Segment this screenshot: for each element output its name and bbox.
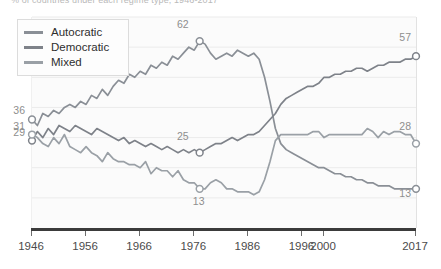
chart-screenshot: % of countries under each regime type, 1… <box>0 0 441 269</box>
value-label-end-mixed: 28 <box>399 120 411 132</box>
legend-item-democratic[interactable]: Democratic <box>24 40 121 55</box>
legend-swatch-icon <box>24 61 43 64</box>
legend-item-autocratic[interactable]: Autocratic <box>24 25 121 40</box>
x-axis-tick-label: 1986 <box>235 240 261 252</box>
x-axis-tick <box>323 231 324 236</box>
x-axis-line <box>31 228 416 231</box>
legend-label: Autocratic <box>51 27 102 39</box>
x-axis-tick <box>247 231 248 236</box>
x-axis-tick <box>193 231 194 236</box>
value-label-end-autocratic: 13 <box>399 187 411 199</box>
chart-legend: Autocratic Democratic Mixed <box>17 19 129 76</box>
x-axis-tick <box>31 231 32 236</box>
x-axis-tick-label: 1976 <box>180 240 206 252</box>
x-axis-tick-label: 1956 <box>72 240 98 252</box>
value-label-start-democratic: 29 <box>13 126 25 138</box>
legend-swatch-icon <box>24 46 43 49</box>
value-label-annotation-democratic: 25 <box>177 130 189 142</box>
x-axis-tick <box>139 231 140 236</box>
x-axis-tick-label: 2017 <box>402 240 428 252</box>
x-axis-tick <box>415 231 416 236</box>
legend-label: Democratic <box>51 42 109 54</box>
x-axis-tick-label: 1966 <box>126 240 152 252</box>
x-axis-tick <box>85 231 86 236</box>
value-label-start-autocratic: 36 <box>13 104 25 116</box>
value-label-annotation-autocratic: 62 <box>177 18 189 30</box>
x-axis-tick-label: 2000 <box>310 240 336 252</box>
value-label-annotation-mixed: 13 <box>193 195 205 207</box>
x-axis-tick <box>301 231 302 236</box>
legend-swatch-icon <box>24 31 43 34</box>
value-label-end-democratic: 57 <box>399 31 411 43</box>
legend-item-mixed[interactable]: Mixed <box>24 55 121 70</box>
x-axis-tick-label: 1946 <box>18 240 44 252</box>
chart-caption: % of countries under each regime type, 1… <box>11 0 431 6</box>
legend-label: Mixed <box>51 57 82 69</box>
